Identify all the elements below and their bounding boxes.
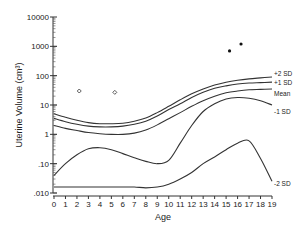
series-label: -1 SD xyxy=(274,108,291,115)
curve--2-sd xyxy=(54,140,272,188)
x-tick-label: 7 xyxy=(132,200,137,209)
x-tick-label: 6 xyxy=(121,200,126,209)
y-tick-label: .010 xyxy=(33,189,49,198)
y-tick-label: 1 xyxy=(45,130,50,139)
y-tick-label: 1000 xyxy=(31,42,49,51)
filled-dot-marker xyxy=(228,49,231,52)
filled-dot-marker xyxy=(239,42,242,45)
open-diamond-marker xyxy=(77,89,81,93)
x-tick-label: 8 xyxy=(144,200,149,209)
x-tick-label: 4 xyxy=(98,200,103,209)
axes: 100001000100101.10.010012345678910111213… xyxy=(27,13,277,209)
x-axis-label: Age xyxy=(155,212,171,222)
chart-canvas: 100001000100101.10.010012345678910111213… xyxy=(0,0,304,233)
x-tick-label: 2 xyxy=(75,200,80,209)
x-tick-label: 19 xyxy=(268,200,277,209)
x-tick-label: 5 xyxy=(109,200,114,209)
x-tick-label: 12 xyxy=(187,200,196,209)
x-tick-label: 13 xyxy=(199,200,208,209)
x-tick-label: 1 xyxy=(63,200,68,209)
x-tick-label: 14 xyxy=(210,200,219,209)
x-tick-label: 10 xyxy=(164,200,173,209)
data-points xyxy=(77,42,242,94)
series-labels: +2 SD+1 SDMean-1 SD-2 SD xyxy=(274,70,293,187)
x-tick-label: 0 xyxy=(52,200,57,209)
x-tick-label: 17 xyxy=(245,200,254,209)
x-tick-label: 11 xyxy=(176,200,185,209)
y-axis-label: Uterine Volume (cm³) xyxy=(14,62,24,147)
curves xyxy=(54,77,272,188)
y-tick-label: 10000 xyxy=(27,13,50,22)
y-tick-label: .10 xyxy=(38,160,50,169)
x-tick-label: 16 xyxy=(233,200,242,209)
x-tick-label: 18 xyxy=(256,200,265,209)
x-tick-label: 3 xyxy=(86,200,91,209)
y-tick-label: 100 xyxy=(36,72,50,81)
open-diamond-marker xyxy=(113,90,117,94)
series-label: +1 SD xyxy=(274,79,293,86)
curve--1-sd xyxy=(54,82,272,127)
series-label: -2 SD xyxy=(274,180,291,187)
y-tick-label: 10 xyxy=(40,101,49,110)
x-tick-label: 15 xyxy=(222,200,231,209)
series-label: Mean xyxy=(274,90,291,97)
curve-mean xyxy=(54,89,272,134)
series-label: +2 SD xyxy=(274,70,293,77)
x-tick-label: 9 xyxy=(155,200,160,209)
uterine-volume-chart: 100001000100101.10.010012345678910111213… xyxy=(0,0,304,233)
